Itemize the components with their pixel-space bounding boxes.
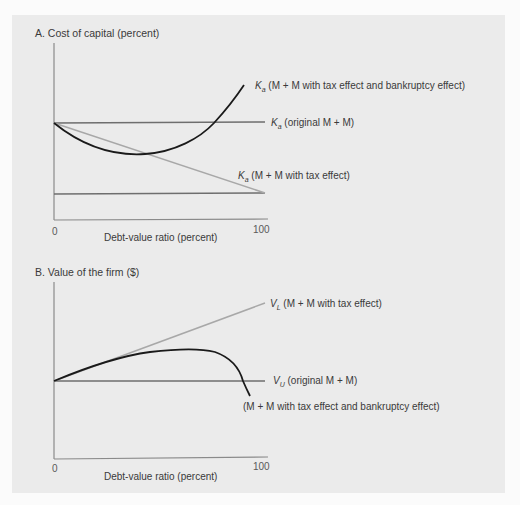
panel-a-label-bankruptcy: Ka (M + M with tax effect and bankruptcy…	[255, 80, 465, 93]
panel-b-label-bankruptcy: (M + M with tax effect and bankruptcy ef…	[243, 401, 440, 412]
panel-a-bankruptcy-curve	[54, 85, 244, 154]
panel-b-title: B. Value of the firm ($)	[35, 266, 139, 278]
panel-a-original-line	[54, 122, 265, 123]
panel-a-x-label: Debt-value ratio (percent)	[104, 232, 217, 243]
panel-a-tick-100: 100	[253, 224, 270, 235]
panel-a-tax-line	[54, 123, 265, 193]
panel-b-tick-100: 100	[253, 461, 270, 472]
panel-b-tick-0: 0	[52, 463, 58, 474]
panel-b-label-vu: VU (original M + M)	[273, 375, 357, 388]
panel-a-x-axis	[54, 219, 268, 220]
panel-b-x-label: Debt-value ratio (percent)	[104, 471, 217, 482]
panel-a-label-tax: Ka (M + M with tax effect)	[238, 170, 350, 183]
panel-b-x-axis	[54, 457, 268, 459]
panel-a-label-original: Ka (original M + M)	[271, 117, 354, 130]
panel-a-title: A. Cost of capital (percent)	[35, 27, 159, 39]
panel-b-label-vl: VL (M + M with tax effect)	[270, 298, 382, 311]
panel-a-floor-line	[54, 193, 265, 194]
panel-a-tick-0: 0	[52, 226, 58, 237]
panel-b-bankruptcy-curve	[54, 349, 250, 396]
chart-svg: A. Cost of capital (percent) Ka (M + M w…	[0, 0, 520, 505]
